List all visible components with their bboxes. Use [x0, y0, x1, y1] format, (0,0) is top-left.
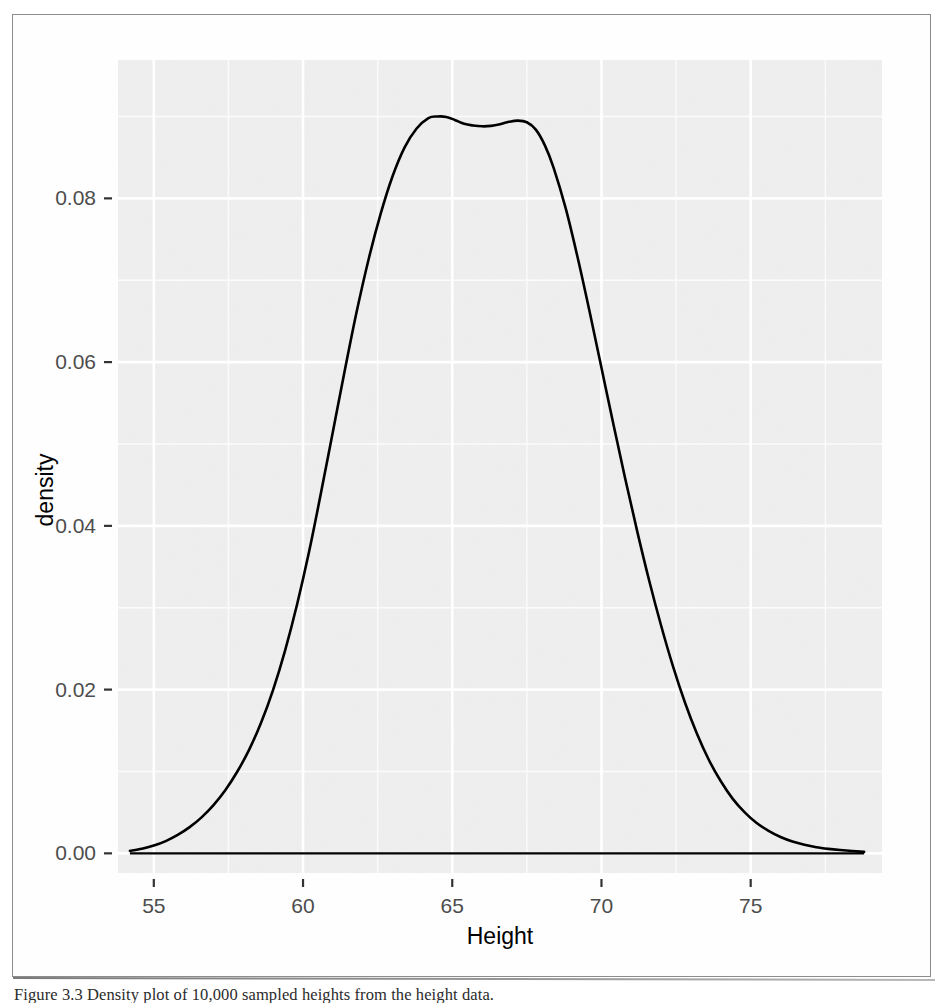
- figure-caption: Figure 3.3 Density plot of 10,000 sample…: [14, 985, 914, 1003]
- y-tick-label: 0.04: [55, 514, 96, 537]
- x-tick-label: 55: [142, 894, 165, 917]
- y-axis-ticks: 0.000.020.040.060.08: [55, 186, 112, 864]
- x-axis-title: Height: [467, 923, 534, 949]
- panel-grain: [118, 60, 882, 873]
- y-tick-label: 0.00: [55, 841, 96, 864]
- x-tick-label: 75: [739, 894, 762, 917]
- figure-bottom-rule: [13, 977, 935, 981]
- x-axis-ticks: 5560657075: [142, 879, 762, 917]
- density-plot-svg: 5560657075 0.000.020.040.060.08 Height d…: [12, 14, 931, 977]
- plot-panel: [118, 60, 882, 873]
- y-axis-title: density: [32, 453, 58, 526]
- y-tick-label: 0.06: [55, 350, 96, 373]
- y-tick-label: 0.02: [55, 678, 96, 701]
- y-tick-label: 0.08: [55, 186, 96, 209]
- density-plot: 5560657075 0.000.020.040.060.08 Height d…: [12, 14, 931, 977]
- x-tick-label: 65: [441, 894, 464, 917]
- x-tick-label: 60: [291, 894, 314, 917]
- figure-page: 5560657075 0.000.020.040.060.08 Height d…: [0, 0, 947, 1003]
- x-tick-label: 70: [590, 894, 613, 917]
